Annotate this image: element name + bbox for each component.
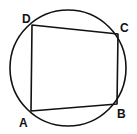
vertex-label-a: A [19,116,28,130]
vertex-label-c: C [120,21,129,35]
quadrilateral-abcd [31,25,118,111]
cyclic-quadrilateral-diagram: A B C D [0,0,137,134]
vertex-label-b: B [117,107,126,121]
vertex-label-d: D [22,12,31,26]
